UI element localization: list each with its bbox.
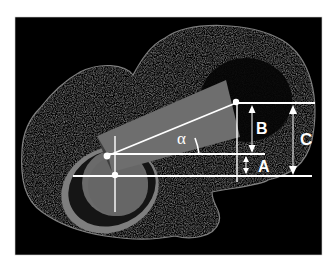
dimension-a-label: A	[258, 158, 270, 175]
dimension-b-label: B	[256, 120, 268, 137]
point-implant-tip	[233, 99, 239, 105]
diagram-canvas: α B A C	[0, 0, 333, 262]
angle-label: α	[177, 129, 186, 148]
dimension-c-label: C	[300, 130, 312, 149]
point-head-center	[112, 172, 118, 178]
point-implant-base	[104, 153, 111, 160]
